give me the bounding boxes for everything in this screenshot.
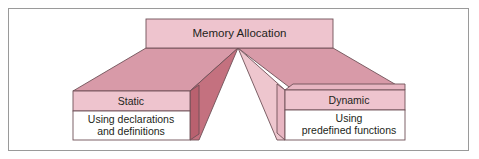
memory-allocation-diagram (0, 0, 479, 159)
node-static-body-box (73, 111, 190, 140)
node-dynamic-heading-box (285, 90, 405, 110)
node-dynamic-side-face (277, 84, 285, 140)
node-dynamic[interactable] (277, 84, 405, 140)
diagram-canvas: Memory Allocation Static Using declarati… (0, 0, 479, 159)
node-dynamic-top-face (285, 84, 405, 90)
node-static-side-face (190, 85, 199, 140)
node-static-heading-box (73, 91, 190, 111)
node-memory-allocation[interactable] (146, 19, 333, 48)
node-static[interactable] (73, 85, 199, 140)
node-memory-allocation-box (146, 19, 333, 48)
node-dynamic-body-box (285, 110, 405, 140)
